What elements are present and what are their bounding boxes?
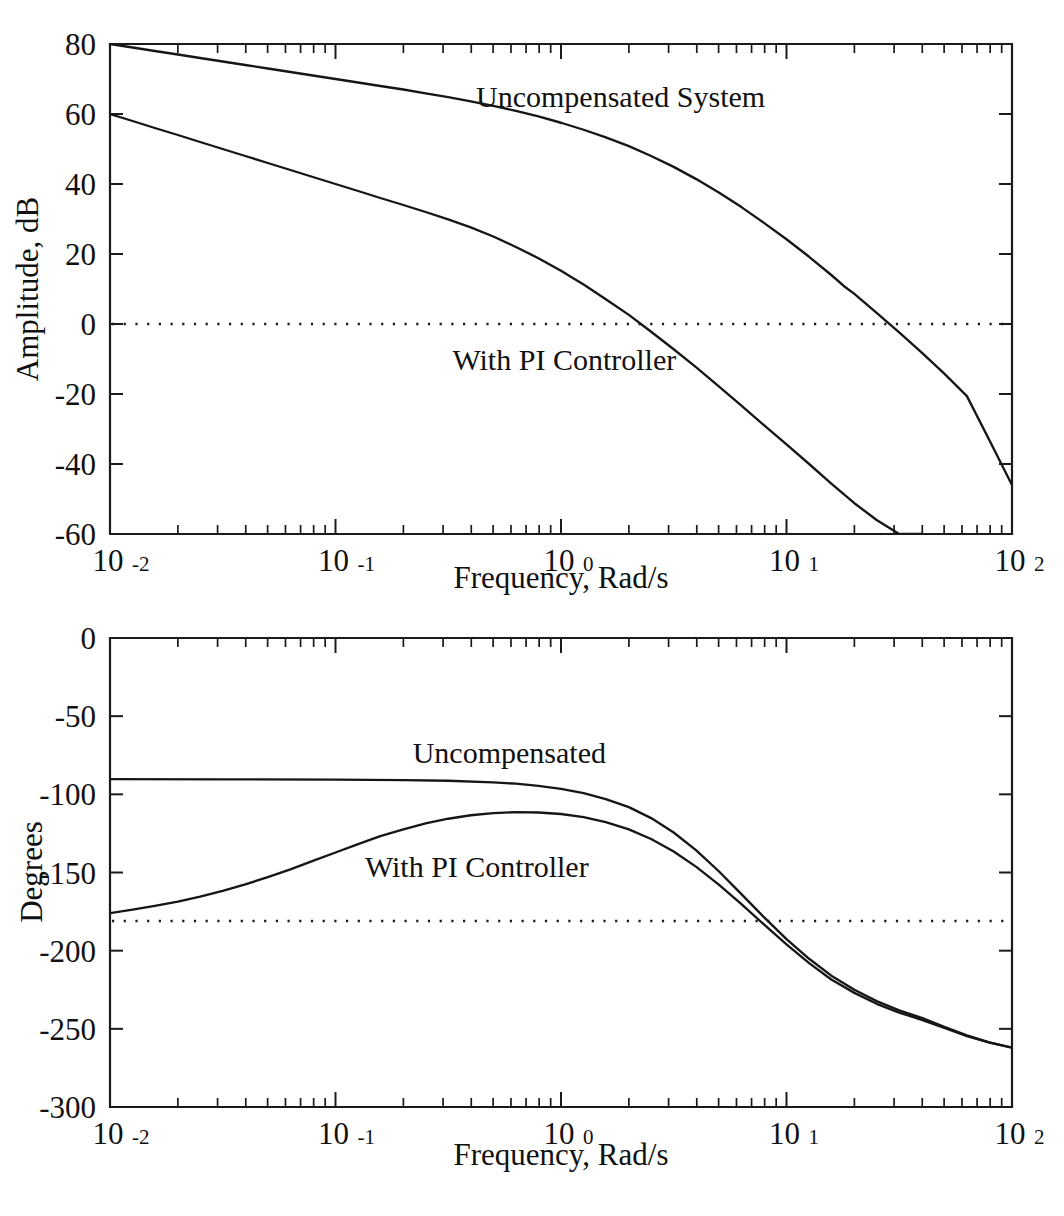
svg-text:-1: -1	[358, 552, 376, 576]
svg-text:10: 10	[995, 1116, 1026, 1151]
uncompensated-system-label: Uncompensated System	[476, 80, 765, 113]
svg-text:10: 10	[93, 1116, 124, 1151]
phase-plot-ytick-label: -200	[39, 934, 96, 969]
phase-plot-ytick-label: 0	[81, 621, 97, 656]
magnitude-plot-ytick-label: 40	[65, 167, 96, 202]
phase-plot-ytick-label: -100	[39, 777, 96, 812]
figure-background	[0, 0, 1064, 1216]
phase-plot-ytick-label: -300	[39, 1090, 96, 1125]
magnitude-x-axis-title: Frequency, Rad/s	[454, 560, 669, 595]
phase-x-axis-title: Frequency, Rad/s	[454, 1137, 669, 1172]
svg-text:10: 10	[769, 543, 800, 578]
svg-text:10: 10	[995, 543, 1026, 578]
magnitude-plot-ytick-label: -40	[55, 447, 96, 482]
phase-plot-ytick-label: -250	[39, 1012, 96, 1047]
with-pi-controller-label: With PI Controller	[452, 343, 676, 376]
svg-text:-1: -1	[358, 1125, 376, 1149]
phase-y-axis-title: Degrees	[14, 821, 49, 923]
svg-text:10: 10	[318, 1116, 349, 1151]
svg-text:1: 1	[809, 1125, 820, 1149]
svg-text:-2: -2	[132, 1125, 150, 1149]
phase-plot-ytick-label: -50	[55, 699, 96, 734]
svg-text:-2: -2	[132, 552, 150, 576]
svg-text:1: 1	[809, 552, 820, 576]
svg-text:10: 10	[769, 1116, 800, 1151]
svg-text:10: 10	[318, 543, 349, 578]
magnitude-plot-ytick-label: -60	[55, 517, 96, 552]
bode-plot-figure: -60-40-2002040608010-210-1100101102 Unco…	[0, 0, 1064, 1216]
magnitude-plot-ytick-label: 80	[65, 27, 96, 62]
magnitude-plot-ytick-label: 60	[65, 97, 96, 132]
magnitude-plot-ytick-label: -20	[55, 377, 96, 412]
svg-text:2: 2	[1034, 1125, 1045, 1149]
magnitude-plot-ytick-label: 20	[65, 237, 96, 272]
svg-text:10: 10	[93, 543, 124, 578]
uncompensated-label: Uncompensated	[413, 736, 606, 769]
magnitude-y-axis-title: Amplitude, dB	[10, 197, 45, 381]
magnitude-plot-ytick-label: 0	[81, 307, 97, 342]
svg-text:2: 2	[1034, 552, 1045, 576]
with-pi-controller-label: With PI Controller	[365, 850, 589, 883]
